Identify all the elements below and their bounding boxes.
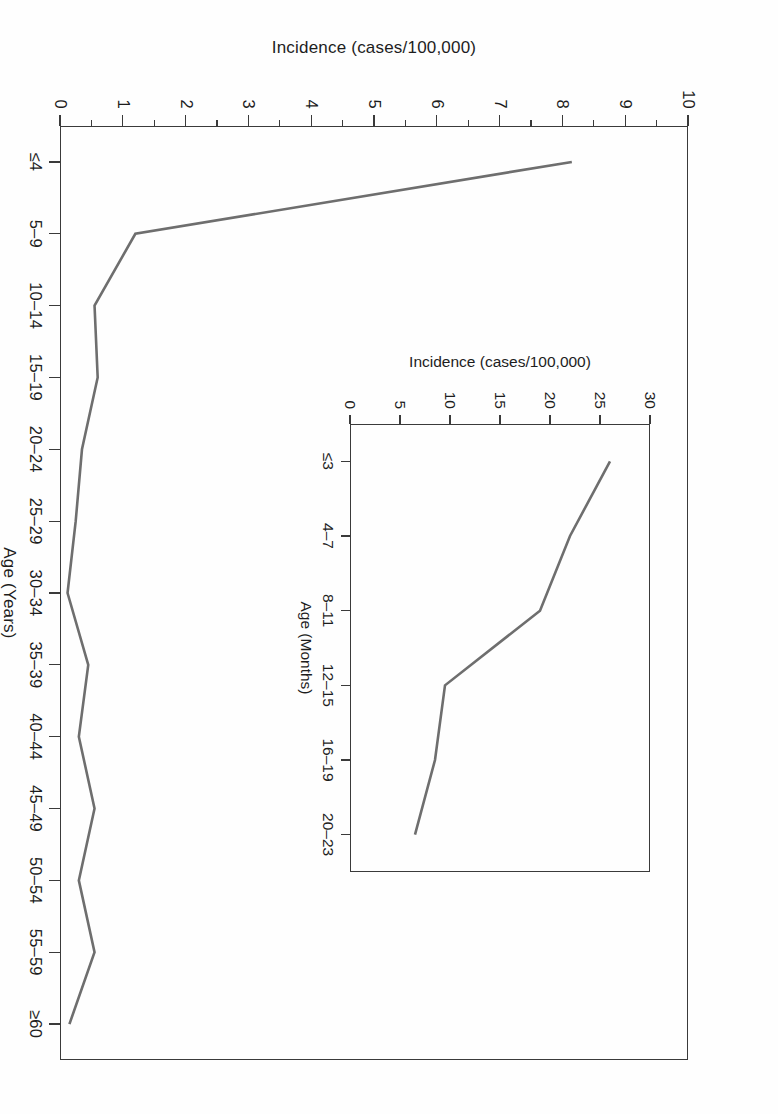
y-tick-label: 5 xyxy=(391,400,409,409)
x-tick-mark xyxy=(341,759,350,760)
x-tick-label: 8–11 xyxy=(319,594,337,627)
x-tick-mark xyxy=(341,685,350,686)
figure-canvas: 012345678910 ≤45–910–1415–1920–2425–2930… xyxy=(0,0,778,1114)
inset-y-axis-label: Incidence (cases/100,000) xyxy=(409,353,591,371)
x-tick-label: ≤3 xyxy=(319,453,337,470)
x-tick-mark xyxy=(341,461,350,462)
y-tick-mark xyxy=(549,415,550,424)
inset-series-line xyxy=(0,0,778,1114)
x-tick-label: 12–15 xyxy=(319,664,337,707)
y-tick-label: 10 xyxy=(441,392,459,409)
y-tick-label: 30 xyxy=(641,392,659,409)
y-tick-mark xyxy=(599,415,600,424)
y-tick-label: 25 xyxy=(591,392,609,409)
x-tick-mark xyxy=(341,834,350,835)
y-tick-mark xyxy=(349,415,350,424)
x-tick-mark xyxy=(341,535,350,536)
y-tick-label: 20 xyxy=(541,392,559,409)
y-tick-mark xyxy=(449,415,450,424)
figure-page: 012345678910 ≤45–910–1415–1920–2425–2930… xyxy=(0,0,778,1114)
x-tick-label: 20–23 xyxy=(319,813,337,856)
y-tick-label: 0 xyxy=(341,400,359,409)
rotated-figure-stage: 012345678910 ≤45–910–1415–1920–2425–2930… xyxy=(0,0,778,1114)
x-tick-label: 16–19 xyxy=(319,738,337,781)
x-tick-mark xyxy=(341,610,350,611)
y-tick-mark xyxy=(399,415,400,424)
y-tick-mark xyxy=(499,415,500,424)
x-tick-label: 4–7 xyxy=(319,523,337,549)
inset-x-axis-label: Age (Months) xyxy=(297,601,315,694)
y-tick-mark xyxy=(649,415,650,424)
y-tick-label: 15 xyxy=(491,392,509,409)
